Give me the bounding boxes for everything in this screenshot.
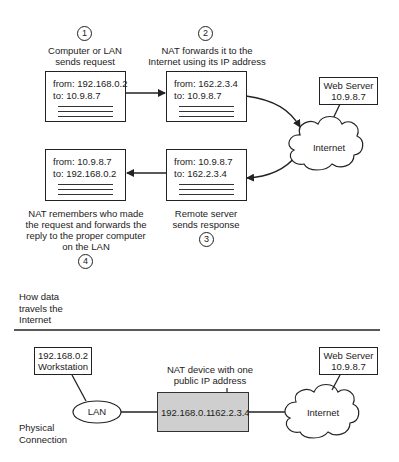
section-label-physical: Physical Connection [19, 422, 67, 445]
step-3-caption: Remote server sends response [160, 208, 252, 230]
step-4-caption-line-2: the request and forwards the [20, 219, 152, 230]
packet-from: from: 10.9.8.7 [53, 156, 112, 167]
step-4-caption-line-4: on the LAN [20, 241, 152, 252]
internet-cloud-label-bottom: Internet [294, 407, 352, 418]
link-workstation-lan [72, 375, 86, 401]
packet-payload-line [58, 194, 113, 195]
lan-label: LAN [78, 406, 116, 417]
packet-payload-line [58, 106, 113, 107]
step-2-caption: NAT forwards it to the Internet using it… [140, 45, 274, 67]
section-label-line-2: Connection [19, 434, 67, 446]
workstation-box: 192.168.0.2 Workstation [34, 347, 92, 375]
packet-to: to: 162.2.3.4 [174, 168, 227, 179]
section-label-line-2: travels the [19, 303, 63, 315]
packet-from: from: 162.2.3.4 [174, 78, 238, 89]
web-server-name: Web Server [320, 350, 377, 361]
step-3-number: 3 [199, 232, 214, 247]
nat-public-ip: 162.2.3.4 [210, 407, 250, 418]
web-server-name: Web Server [320, 80, 377, 91]
arrow-nat-to-internet [246, 96, 300, 127]
packet-response-lan: from: 10.9.8.7 to: 192.168.0.2 [45, 149, 126, 201]
arrow-internet-to-remote-response [247, 155, 297, 178]
nat-device-box: 192.168.0.1 162.2.3.4 [157, 392, 249, 432]
packet-payload-line [58, 111, 113, 112]
packet-payload-line [179, 189, 234, 190]
nat-device-caption: NAT device with one public IP address [160, 364, 260, 386]
section-label-line-3: Internet [19, 314, 63, 326]
step-4-number: 4 [78, 254, 93, 269]
web-server-ip: 10.9.8.7 [320, 91, 377, 102]
packet-payload-line [179, 111, 234, 112]
web-server-box-bottom: Web Server 10.9.8.7 [319, 347, 378, 375]
step-4-caption-line-1: NAT remembers who made [20, 208, 152, 219]
web-server-ip: 10.9.8.7 [320, 361, 377, 372]
workstation-ip: 192.168.0.2 [35, 350, 91, 361]
packet-request-nat: from: 162.2.3.4 to: 10.9.8.7 [166, 71, 247, 122]
section-label-line-1: How data [19, 291, 63, 303]
workstation-name: Workstation [35, 361, 91, 372]
step-1-caption-line-2: sends request [30, 56, 140, 67]
step-4-caption-line-3: reply to the proper computer [20, 230, 152, 241]
section-label-line-1: Physical [19, 422, 67, 434]
packet-to: to: 10.9.8.7 [174, 90, 222, 101]
packet-payload-line [179, 194, 234, 195]
step-3-caption-line-2: sends response [160, 219, 252, 230]
packet-payload-line [179, 184, 234, 185]
packet-to: to: 10.9.8.7 [53, 90, 101, 101]
packet-payload-line [179, 116, 234, 117]
step-1-caption-line-1: Computer or LAN [30, 45, 140, 56]
packet-from: from: 192.168.0.2 [53, 78, 127, 89]
step-2-number: 2 [198, 26, 213, 41]
step-2-caption-line-1: NAT forwards it to the [140, 45, 274, 56]
internet-cloud-label-top: Internet [300, 142, 358, 153]
nat-caption-line-2: public IP address [160, 375, 260, 386]
packet-to: to: 192.168.0.2 [53, 168, 116, 179]
step-4-caption: NAT remembers who made the request and f… [20, 208, 152, 252]
step-2-caption-line-2: Internet using its IP address [140, 56, 274, 67]
step-1-number: 1 [77, 26, 92, 41]
section-label-data-flow: How data travels the Internet [19, 291, 63, 326]
packet-response-remote: from: 10.9.8.7 to: 162.2.3.4 [166, 149, 247, 201]
step-1-caption: Computer or LAN sends request [30, 45, 140, 67]
packet-payload-line [58, 116, 113, 117]
web-server-box-top: Web Server 10.9.8.7 [319, 77, 378, 105]
packet-from: from: 10.9.8.7 [174, 156, 233, 167]
packet-payload-line [58, 189, 113, 190]
packet-request-lan: from: 192.168.0.2 to: 10.9.8.7 [45, 71, 126, 122]
packet-payload-line [58, 184, 113, 185]
nat-private-ip: 192.168.0.1 [161, 407, 211, 418]
nat-caption-line-1: NAT device with one [160, 364, 260, 375]
step-3-caption-line-1: Remote server [160, 208, 252, 219]
packet-payload-line [179, 106, 234, 107]
